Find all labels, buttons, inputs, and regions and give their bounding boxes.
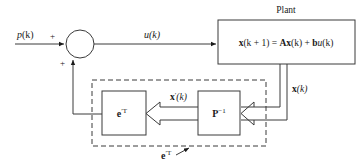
transformed-state-signal: x′(k) <box>146 91 198 125</box>
summing-junction <box>66 30 94 58</box>
state-signal: x(k) <box>241 64 307 125</box>
group-label-pointer-arrow <box>176 148 189 155</box>
e-transpose-sup: ′T <box>121 107 128 115</box>
control-signal-arg: (k) <box>149 29 161 41</box>
plus-sign-bottom: + <box>60 58 65 68</box>
state-signal-arg: (k) <box>297 84 308 95</box>
p-inverse-sup: −1 <box>218 107 226 115</box>
input-signal: p(k) + <box>15 29 64 44</box>
input-signal-arg: (k) <box>22 29 34 41</box>
svg-text:x(k): x(k) <box>292 84 307 95</box>
plant-block: Plant x(k + 1) = Ax(k) + bu(k) <box>218 5 355 64</box>
p-inverse-block: P−1 <box>198 91 240 135</box>
svg-text:e′T: e′T <box>161 149 172 161</box>
dashed-group-label: e′T <box>161 148 189 161</box>
svg-text:p(k): p(k) <box>16 29 34 41</box>
control-signal: u(k) <box>94 29 216 44</box>
control-block-diagram: p(k) + + u(k) Plant x(k + 1) = Ax(k) + b… <box>0 0 361 164</box>
plant-equation: x(k + 1) = Ax(k) + bu(k) <box>239 38 334 49</box>
svg-text:P−1: P−1 <box>212 107 226 119</box>
svg-text:u(k): u(k) <box>144 29 161 41</box>
e-transpose-block: e′T <box>102 91 146 135</box>
plus-sign-left: + <box>50 31 55 41</box>
transformed-state-arg: (k) <box>176 92 187 103</box>
svg-text:x′(k): x′(k) <box>170 91 187 103</box>
group-label-sup: ′T <box>165 149 172 157</box>
plant-title: Plant <box>276 5 296 15</box>
feedback-path <box>73 60 102 114</box>
svg-text:e′T: e′T <box>117 107 128 119</box>
